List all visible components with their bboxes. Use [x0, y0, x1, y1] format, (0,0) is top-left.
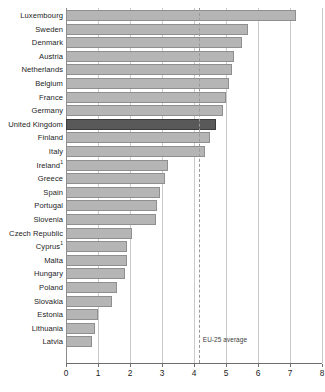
category-label-italy: Italy: [49, 145, 63, 158]
bar-row: [66, 267, 322, 280]
bar-row: [66, 295, 322, 308]
x-tick-label-4: 4: [192, 368, 197, 378]
x-tick-mark-1: [98, 364, 99, 367]
category-label-malta: Malta: [44, 254, 63, 267]
bar-greece: [66, 173, 165, 184]
x-tick-label-0: 0: [64, 368, 69, 378]
category-label-luxembourg: Luxembourg: [20, 9, 63, 22]
bar-denmark: [66, 37, 242, 48]
x-tick-mark-4: [194, 364, 195, 367]
category-label-belgium: Belgium: [35, 77, 63, 90]
bar-row: [66, 145, 322, 158]
category-label-spain: Spain: [43, 186, 63, 199]
category-label-portugal: Portugal: [34, 199, 63, 212]
bar-ireland: [66, 160, 168, 171]
bar-row: [66, 172, 322, 185]
bar-netherlands: [66, 64, 232, 75]
category-label-slovakia: Slovakia: [34, 295, 63, 308]
bar-row: [66, 104, 322, 117]
bar-finland: [66, 132, 210, 143]
bar-austria: [66, 51, 234, 62]
x-tick-label-6: 6: [256, 368, 261, 378]
category-axis-labels: LuxembourgSwedenDenmarkAustriaNetherland…: [0, 8, 63, 364]
bar-row: [66, 199, 322, 212]
category-label-austria: Austria: [39, 50, 63, 63]
bar-row: [66, 254, 322, 267]
category-label-ireland: Ireland1: [37, 159, 63, 172]
bar-latvia: [66, 336, 92, 347]
category-label-cyprus: Cyprus1: [36, 240, 63, 253]
x-tick-label-3: 3: [160, 368, 165, 378]
x-tick-label-7: 7: [288, 368, 293, 378]
bar-chart: LuxembourgSwedenDenmarkAustriaNetherland…: [0, 0, 325, 392]
bar-row: [66, 36, 322, 49]
bar-row: [66, 23, 322, 36]
bar-row: [66, 118, 322, 131]
eu-25-average-label: EU-25 average: [203, 336, 247, 343]
category-label-lithuania: Lithuania: [32, 322, 63, 335]
bar-row: [66, 91, 322, 104]
bar-estonia: [66, 309, 98, 320]
category-label-france: France: [39, 91, 63, 104]
x-tick-mark-7: [290, 364, 291, 367]
x-tick-mark-0: [66, 364, 67, 367]
bar-row: [66, 77, 322, 90]
category-label-estonia: Estonia: [37, 308, 63, 321]
bar-portugal: [66, 200, 157, 211]
category-label-hungary: Hungary: [34, 267, 63, 280]
category-label-germany: Germany: [31, 104, 63, 117]
bar-slovakia: [66, 296, 112, 307]
category-label-latvia: Latvia: [42, 335, 63, 348]
bar-row: [66, 186, 322, 199]
bar-row: [66, 50, 322, 63]
bar-cyprus: [66, 241, 127, 252]
x-tick-mark-3: [162, 364, 163, 367]
category-label-netherlands: Netherlands: [22, 63, 64, 76]
bar-poland: [66, 282, 117, 293]
plot-area: [66, 8, 322, 364]
bar-slovenia: [66, 214, 156, 225]
bar-spain: [66, 187, 160, 198]
bar-lithuania: [66, 323, 95, 334]
category-label-czech-republic: Czech Republic: [9, 227, 63, 240]
bar-row: [66, 335, 322, 348]
category-label-finland: Finland: [38, 131, 63, 144]
bar-row: [66, 63, 322, 76]
bar-france: [66, 92, 226, 103]
category-label-sweden: Sweden: [35, 23, 63, 36]
x-tick-mark-6: [258, 364, 259, 367]
gridline-8: [322, 8, 323, 363]
bar-row: [66, 240, 322, 253]
bar-united-kingdom: [66, 119, 216, 130]
bar-row: [66, 308, 322, 321]
bar-row: [66, 9, 322, 22]
bar-row: [66, 213, 322, 226]
bar-belgium: [66, 78, 229, 89]
x-tick-mark-5: [226, 364, 227, 367]
bar-italy: [66, 146, 205, 157]
bar-row: [66, 322, 322, 335]
footnote-marker: 1: [60, 241, 63, 247]
bar-czech-republic: [66, 228, 132, 239]
x-tick-mark-8: [322, 364, 323, 367]
eu-25-average-line: [199, 8, 200, 363]
x-tick-label-2: 2: [128, 368, 133, 378]
category-label-poland: Poland: [39, 281, 63, 294]
x-tick-label-1: 1: [96, 368, 101, 378]
x-tick-label-8: 8: [320, 368, 325, 378]
bar-row: [66, 159, 322, 172]
bar-luxembourg: [66, 10, 296, 21]
bar-rows: [66, 8, 322, 363]
x-axis: 012345678: [66, 364, 322, 384]
x-tick-label-5: 5: [224, 368, 229, 378]
footnote-marker: 1: [60, 159, 63, 165]
category-label-greece: Greece: [38, 172, 63, 185]
x-tick-mark-2: [130, 364, 131, 367]
bar-row: [66, 131, 322, 144]
bar-malta: [66, 255, 127, 266]
bar-sweden: [66, 24, 248, 35]
category-label-united-kingdom: United Kingdom: [8, 118, 63, 131]
bar-row: [66, 281, 322, 294]
category-label-denmark: Denmark: [32, 36, 63, 49]
bar-hungary: [66, 268, 125, 279]
